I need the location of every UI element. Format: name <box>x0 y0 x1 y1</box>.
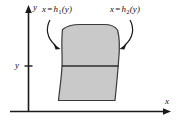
shaded-region <box>59 25 120 101</box>
right-leader-curve <box>125 20 133 46</box>
right-curve-argument: (y) <box>130 4 141 14</box>
left-curve-label: x=h1(y) <box>42 5 72 14</box>
right-curve-label: x=h2(y) <box>110 5 140 14</box>
figure-region-between-curves: x=h1(y) x=h2(y) y x y <box>0 0 178 134</box>
left-curve-subscript: 1 <box>58 8 61 15</box>
x-axis-label: x <box>165 97 169 106</box>
left-curve-argument: (y) <box>62 4 73 14</box>
y-axis-arrowhead <box>25 5 32 13</box>
left-leader-arrowhead <box>53 44 60 50</box>
y-axis-label: y <box>33 3 37 12</box>
figure-canvas <box>0 0 178 134</box>
left-leader-curve <box>47 20 55 46</box>
right-leader-arrowhead <box>120 44 127 50</box>
y-tick-label: y <box>15 61 19 70</box>
right-curve-subscript: 2 <box>126 8 129 15</box>
x-axis-arrowhead <box>163 108 171 115</box>
